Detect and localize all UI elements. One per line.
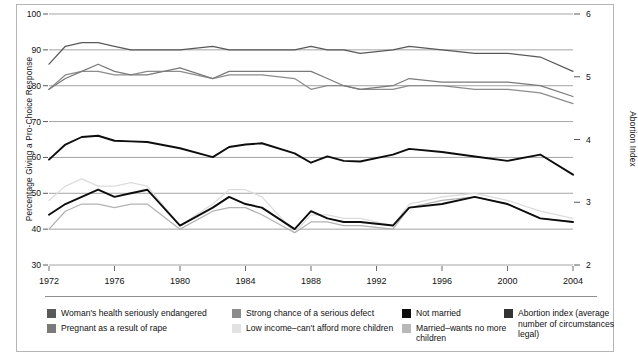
x-tick-label: 1996 [432,276,452,286]
legend-column-2: Strong chance of a serious defectLow inc… [232,308,407,337]
legend-label: Woman's health seriously endangered [61,308,207,319]
legend-swatch-icon [232,324,241,333]
legend-entry[interactable]: Low income–can't afford more children [232,323,407,334]
legend-entry[interactable]: Married–wants no more children [402,323,512,344]
x-tick-label: 2004 [563,276,583,286]
legend-swatch-icon [402,309,411,318]
x-tick-label: 2000 [497,276,517,286]
legend-swatch-icon [47,324,56,333]
x-tick-label: 1976 [104,276,124,286]
x-tick-label: 1992 [366,276,386,286]
legend-column-4: Abortion index (average number of circum… [504,308,619,344]
y2-tick-label: 2 [586,260,591,270]
line-chart: 3040506070809010023456197219761980198419… [0,0,630,290]
series-line [49,71,573,103]
y2-tick-label: 4 [586,135,591,145]
legend-entry[interactable]: Woman's health seriously endangered [47,308,237,319]
series-line [49,179,573,233]
y2-axis-title: Abortion Index [628,14,638,264]
legend-label: Pregnant as a result of rape [61,323,167,334]
y-axis-title: Percentage Giving a Pro-Choice Response [24,14,34,264]
legend-entry[interactable]: Abortion index (average number of circum… [504,308,619,340]
legend-swatch-icon [232,309,241,318]
x-tick-label: 1984 [235,276,255,286]
x-tick-label: 1972 [39,276,59,286]
legend-separator [45,296,597,297]
legend-column-3: Not marriedMarried–wants no more childre… [402,308,512,348]
x-tick-label: 1988 [301,276,321,286]
legend-label: Not married [416,308,461,319]
legend: Woman's health seriously endangeredPregn… [17,296,613,354]
legend-column-1: Woman's health seriously endangeredPregn… [47,308,237,337]
plot-area: 3040506070809010023456197219761980198419… [0,0,630,290]
legend-entry[interactable]: Pregnant as a result of rape [47,323,237,334]
series-line [49,190,573,229]
legend-label: Strong chance of a serious defect [246,308,374,319]
legend-swatch-icon [402,324,411,333]
x-tick-label: 1980 [170,276,190,286]
y2-tick-label: 5 [586,72,591,82]
legend-entry[interactable]: Strong chance of a serious defect [232,308,407,319]
legend-swatch-icon [47,309,56,318]
y2-tick-label: 3 [586,197,591,207]
legend-entry[interactable]: Not married [402,308,512,319]
series-line [49,64,573,96]
series-line [49,43,573,72]
legend-label: Low income–can't afford more children [246,323,393,334]
legend-swatch-icon [504,309,513,318]
y2-tick-label: 6 [586,9,591,19]
legend-label: Married–wants no more children [416,323,512,344]
legend-label: Abortion index (average number of circum… [518,308,619,340]
series-line [49,136,573,175]
